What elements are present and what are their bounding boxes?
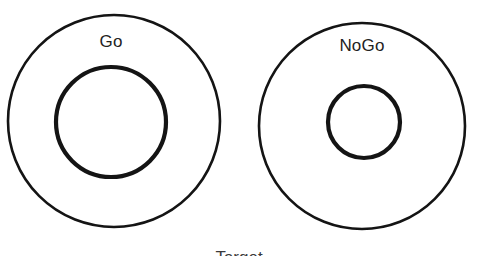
nogo-inner-circle <box>328 86 400 158</box>
stimulus-figure: Go NoGo Target <box>0 0 478 256</box>
go-inner-circle <box>56 67 166 177</box>
nogo-label: NoGo <box>258 37 466 54</box>
figure-caption-clip: Target <box>0 249 478 256</box>
figure-caption: Target <box>0 249 478 256</box>
go-label: Go <box>0 33 222 50</box>
